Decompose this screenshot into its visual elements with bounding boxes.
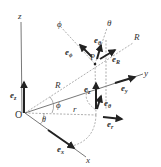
x-axis-label: x — [85, 155, 90, 165]
eR-label: eR — [112, 54, 120, 65]
theta-angle-label: θ — [42, 115, 46, 124]
z-axis-label: z — [17, 11, 22, 21]
etheta-cyl-label: eθ — [104, 98, 112, 109]
arc-xy — [72, 115, 96, 146]
er-arrow — [103, 117, 122, 119]
er-label: er — [107, 119, 114, 130]
origin-label: O — [15, 109, 22, 120]
etheta-sph-arrow — [97, 45, 101, 59]
y-axis-label: y — [143, 68, 148, 78]
ey-arrow — [115, 77, 135, 83]
ephi-label: eϕ — [65, 47, 73, 58]
phi-angle-label: ϕ — [56, 100, 61, 110]
phi-line-label: ϕ — [57, 19, 62, 29]
etheta-sph-label: eθ — [94, 35, 102, 46]
R-line — [25, 43, 133, 113]
ey-label: ey — [121, 83, 128, 94]
point-label: P — [90, 52, 95, 62]
point-P — [94, 63, 97, 66]
r-distance-label: r — [73, 104, 77, 114]
ex-arrow — [48, 130, 74, 148]
ez-origin-label: ez — [10, 90, 17, 101]
etheta-cyl-arrow — [97, 96, 101, 109]
ez-point-label: ez — [84, 84, 91, 95]
R-line-label: R — [133, 32, 140, 42]
R-distance-label: R — [54, 80, 61, 90]
phi-arc — [50, 97, 54, 113]
z-axis — [21, 22, 22, 113]
theta-line-label: θ — [107, 18, 112, 28]
coordinate-diagram: z y x O P R θ ϕ R r ϕ θ ez ex ey ez eθ e… — [0, 0, 161, 167]
ex-label: ex — [57, 144, 64, 155]
r-line — [25, 113, 96, 115]
